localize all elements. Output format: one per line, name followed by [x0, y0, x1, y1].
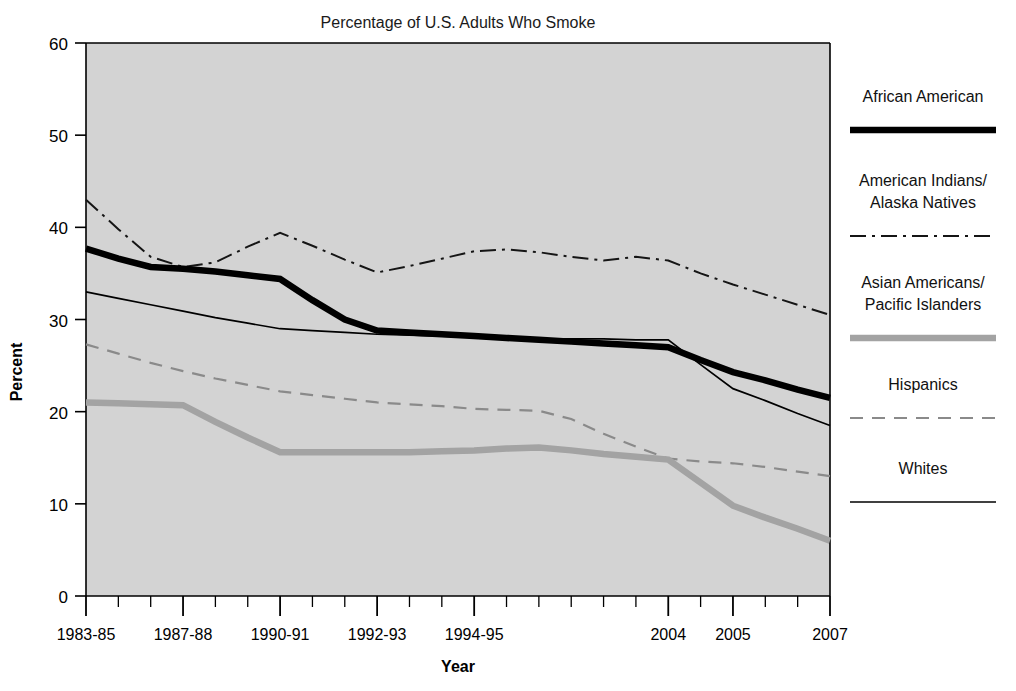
legend-label: American Indians/ — [859, 172, 988, 189]
legend-label: Asian Americans/ — [861, 274, 985, 291]
y-tick-label: 10 — [49, 496, 68, 515]
y-tick-label: 60 — [49, 35, 68, 54]
x-tick-label: 1987-88 — [154, 626, 213, 643]
y-axis-label: Percent — [8, 342, 25, 401]
y-tick-label: 20 — [49, 404, 68, 423]
x-tick-label: 2007 — [812, 626, 848, 643]
plot-area-background — [86, 43, 830, 596]
x-tick-label: 2005 — [715, 626, 751, 643]
smoking-percentage-line-chart: Percentage of U.S. Adults Who Smoke Perc… — [0, 0, 1016, 691]
x-tick-label: 1983-85 — [57, 626, 116, 643]
y-tick-label: 50 — [49, 127, 68, 146]
legend-label: Hispanics — [888, 376, 957, 393]
y-tick-label: 40 — [49, 219, 68, 238]
legend-label: Whites — [899, 460, 948, 477]
y-tick-label: 30 — [49, 312, 68, 331]
x-axis-tick-labels: 1983-851987-881990-911992-931994-9520042… — [57, 626, 848, 643]
legend-label: African American — [863, 88, 984, 105]
x-axis-label: Year — [441, 658, 475, 675]
x-tick-label: 1994-95 — [445, 626, 504, 643]
y-tick-label: 0 — [59, 588, 68, 607]
chart-title: Percentage of U.S. Adults Who Smoke — [321, 14, 596, 31]
legend-label-line2: Alaska Natives — [870, 194, 976, 211]
x-tick-label: 1992-93 — [348, 626, 407, 643]
legend-label-line2: Pacific Islanders — [865, 296, 982, 313]
x-tick-label: 1990-91 — [251, 626, 310, 643]
x-tick-label: 2004 — [650, 626, 686, 643]
